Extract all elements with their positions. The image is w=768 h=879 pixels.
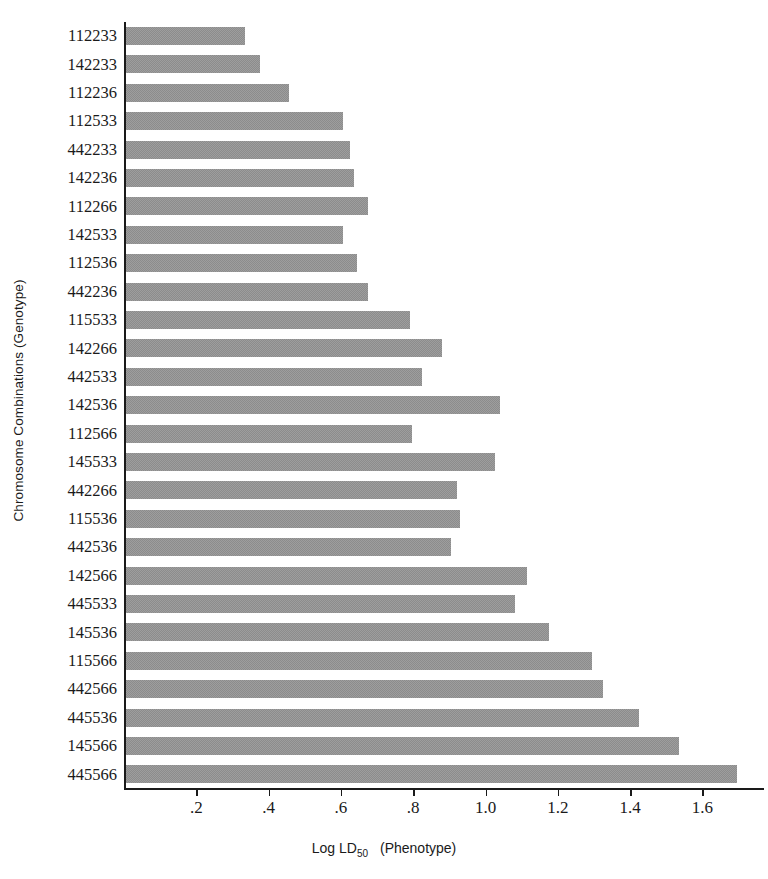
bar-category-label: 115533 — [68, 306, 124, 334]
bar-category-label: 145533 — [68, 448, 125, 476]
bar-category-label: 442236 — [68, 278, 125, 306]
bar-category-label: 442233 — [68, 136, 125, 164]
x-axis-title-subscript: 50 — [357, 848, 368, 859]
x-axis-tick — [558, 788, 560, 796]
bar-row: 142236 — [124, 164, 738, 192]
bar-row: 445536 — [124, 704, 738, 732]
x-axis-tick — [630, 788, 632, 796]
bar-category-label: 112266 — [68, 192, 124, 220]
x-axis-title: Log LD50(Phenotype) — [0, 840, 768, 859]
bar — [126, 169, 354, 187]
bar — [126, 652, 592, 670]
bar-category-label: 442533 — [68, 363, 125, 391]
x-axis-tick-label: 1.0 — [456, 798, 516, 818]
x-axis-tick-label: .6 — [311, 798, 371, 818]
bar-category-label: 442266 — [68, 476, 125, 504]
x-axis-tick — [486, 788, 488, 796]
bar — [126, 765, 737, 783]
bar-row: 145533 — [124, 448, 738, 476]
bar-category-label: 445536 — [68, 704, 125, 732]
bar-row: 442233 — [124, 136, 738, 164]
bar — [126, 311, 410, 329]
x-axis-tick-label: .8 — [383, 798, 443, 818]
bar-row: 442236 — [124, 278, 738, 306]
bar-category-label: 442566 — [68, 675, 125, 703]
bar — [126, 453, 495, 471]
bar-category-label: 442536 — [68, 533, 125, 561]
bar-category-label: 445566 — [68, 760, 125, 788]
bar-category-label: 112533 — [68, 107, 124, 135]
x-axis-tick-label: 1.2 — [528, 798, 588, 818]
bar — [126, 481, 457, 499]
bar-row: 142566 — [124, 562, 738, 590]
bar — [126, 623, 549, 641]
bar-row: 442566 — [124, 675, 738, 703]
bar-row: 112266 — [124, 192, 738, 220]
x-axis-tick-label: 1.4 — [600, 798, 660, 818]
bar-category-label: 112233 — [68, 22, 124, 50]
bar-row: 112236 — [124, 79, 738, 107]
x-axis-tick — [413, 788, 415, 796]
y-axis-title: Chromosome Combinations (Genotype) — [0, 0, 36, 800]
bar-category-label: 142566 — [68, 562, 125, 590]
plot-area: 1122331422331122361125334422331422361122… — [124, 22, 738, 788]
bar-row: 115533 — [124, 306, 738, 334]
x-axis-title-pre: Log LD — [312, 840, 357, 856]
bar — [126, 368, 422, 386]
bar-category-label: 115566 — [68, 647, 124, 675]
bar — [126, 55, 260, 73]
x-axis-tick — [269, 788, 271, 796]
bar — [126, 567, 527, 585]
bar-row: 112536 — [124, 249, 738, 277]
bar — [126, 425, 412, 443]
bar-row: 445566 — [124, 760, 738, 788]
bar — [126, 680, 603, 698]
bar-row: 115566 — [124, 647, 738, 675]
bar-row: 145566 — [124, 732, 738, 760]
bar-row: 142533 — [124, 221, 738, 249]
bar-row: 142233 — [124, 50, 738, 78]
bar-category-label: 112536 — [68, 249, 124, 277]
bar-category-label: 142233 — [68, 50, 125, 78]
bar-category-label: 145536 — [68, 618, 125, 646]
bar-row: 145536 — [124, 618, 738, 646]
bar-category-label: 115536 — [68, 505, 124, 533]
x-axis-tick — [702, 788, 704, 796]
bar-row: 142266 — [124, 334, 738, 362]
bar — [126, 737, 679, 755]
x-axis-title-post: (Phenotype) — [380, 840, 456, 856]
bar-row: 442266 — [124, 476, 738, 504]
bar-row: 112566 — [124, 420, 738, 448]
bar-chart: Chromosome Combinations (Genotype) 11223… — [0, 0, 768, 879]
bar — [126, 112, 343, 130]
bar — [126, 27, 245, 45]
bar-category-label: 145566 — [68, 732, 125, 760]
bar-category-label: 142236 — [68, 164, 125, 192]
bar-category-label: 112236 — [68, 79, 124, 107]
x-axis-tick — [196, 788, 198, 796]
bar-category-label: 112566 — [68, 420, 124, 448]
bar — [126, 197, 368, 215]
bar — [126, 254, 357, 272]
x-axis-tick — [341, 788, 343, 796]
bar-category-label: 142536 — [68, 391, 125, 419]
bar — [126, 226, 343, 244]
x-axis-tick-label: 1.6 — [672, 798, 732, 818]
bar-row: 442533 — [124, 363, 738, 391]
bar — [126, 141, 350, 159]
bar-row: 112233 — [124, 22, 738, 50]
bar-row: 445533 — [124, 590, 738, 618]
bar-category-label: 142266 — [68, 334, 125, 362]
bar-category-label: 142533 — [68, 221, 125, 249]
bar-row: 142536 — [124, 391, 738, 419]
y-axis-title-text: Chromosome Combinations (Genotype) — [11, 279, 26, 521]
bar — [126, 538, 451, 556]
bar — [126, 709, 639, 727]
bar-category-label: 445533 — [68, 590, 125, 618]
x-axis-tick-label: .4 — [239, 798, 299, 818]
x-axis-tick-label: .2 — [166, 798, 226, 818]
bar-row: 115536 — [124, 505, 738, 533]
bar — [126, 339, 442, 357]
bar — [126, 84, 289, 102]
bar — [126, 595, 515, 613]
